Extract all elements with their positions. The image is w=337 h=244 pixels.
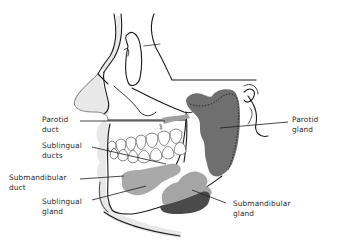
- label-submandibular-gland: Submandibular gland: [233, 199, 291, 218]
- parotid-duct-opening: [160, 124, 162, 129]
- label-parotid-duct: Parotid duct: [42, 115, 68, 134]
- parotid-gland-shape: [186, 89, 240, 176]
- label-submandibular-duct: Submandibular duct: [9, 173, 67, 192]
- label-parotid-gland: Parotid gland: [292, 115, 318, 134]
- label-sublingual-ducts: Sublingual ducts: [42, 141, 82, 160]
- teeth: [108, 129, 186, 163]
- label-sublingual-gland: Sublingual gland: [42, 197, 82, 216]
- salivary-gland-diagram: Parotid duct Sublingual ducts Submandibu…: [0, 0, 337, 244]
